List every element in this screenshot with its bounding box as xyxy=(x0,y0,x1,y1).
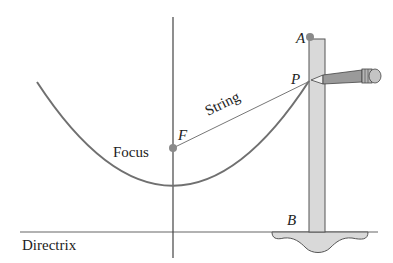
ruler-base xyxy=(272,232,368,253)
label-p: P xyxy=(290,71,300,87)
label-b: B xyxy=(287,212,296,228)
focus-point xyxy=(169,144,177,152)
label-f: F xyxy=(177,127,188,143)
string-line xyxy=(173,81,310,148)
parabola-string-construction-diagram: A P B F Focus String Directrix xyxy=(0,0,393,263)
point-a-marker xyxy=(306,33,314,41)
ruler xyxy=(309,39,325,232)
label-focus: Focus xyxy=(113,144,149,160)
label-a: A xyxy=(295,30,306,46)
label-string: String xyxy=(202,88,242,119)
label-directrix: Directrix xyxy=(22,237,77,253)
